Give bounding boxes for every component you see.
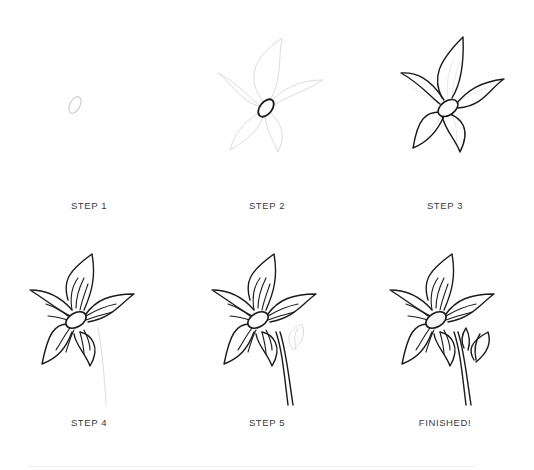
step-1-label: STEP 1 [0,200,178,211]
finished-panel: FINISHED! [356,240,534,465]
petals [390,254,494,366]
stem-guide [98,328,106,405]
flower-center [435,96,461,120]
step-5-label: STEP 5 [178,417,356,428]
bottom-divider [28,466,474,467]
finished-label: FINISHED! [356,417,534,428]
petals [212,254,316,366]
stem-left [276,332,288,405]
flower-center [63,308,89,331]
step-4-panel: STEP 4 [0,240,178,465]
step-5-panel: STEP 5 [178,240,356,465]
step-2-drawing [178,0,356,190]
step-4-drawing [0,240,178,430]
step-1-panel: STEP 1 [0,0,178,225]
step-2-label: STEP 2 [178,200,356,211]
stem-left [454,332,466,405]
flower-center [423,308,449,331]
leaf-guide [289,324,304,350]
finished-drawing [356,240,534,430]
step-3-panel: STEP 3 [356,0,534,225]
leaf-bud [462,328,489,362]
flower-center [245,308,271,331]
step-1-drawing [0,0,178,190]
step-3-label: STEP 3 [356,200,534,211]
step-3-drawing [356,0,534,190]
petals [30,254,134,366]
step-4-label: STEP 4 [0,417,178,428]
step-2-panel: STEP 2 [178,0,356,225]
petal-guides [218,38,323,152]
center-oval-guide [66,95,83,116]
step-5-drawing [178,240,356,430]
